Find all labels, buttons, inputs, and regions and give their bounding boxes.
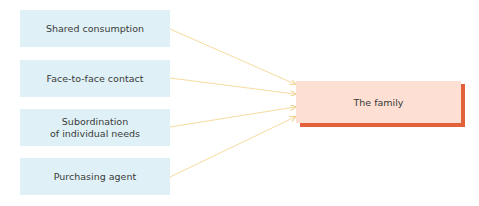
arrow-4 (170, 117, 295, 177)
source-box-face-to-face-contact: Face-to-face contact (20, 60, 170, 97)
source-box-shared-consumption: Shared consumption (20, 10, 170, 47)
source-box-purchasing-agent: Purchasing agent (20, 158, 170, 195)
source-label: Subordination of individual needs (50, 116, 140, 140)
arrow-3 (170, 107, 295, 127)
arrow-1 (170, 29, 295, 84)
target-box-the-family: The family (296, 81, 461, 123)
source-label: Shared consumption (46, 23, 144, 35)
source-box-subordination: Subordination of individual needs (20, 109, 170, 146)
arrow-2 (170, 78, 295, 94)
target-label: The family (353, 97, 403, 108)
source-label: Face-to-face contact (47, 73, 144, 85)
target-node: The family (296, 81, 465, 127)
source-label: Purchasing agent (54, 171, 136, 183)
